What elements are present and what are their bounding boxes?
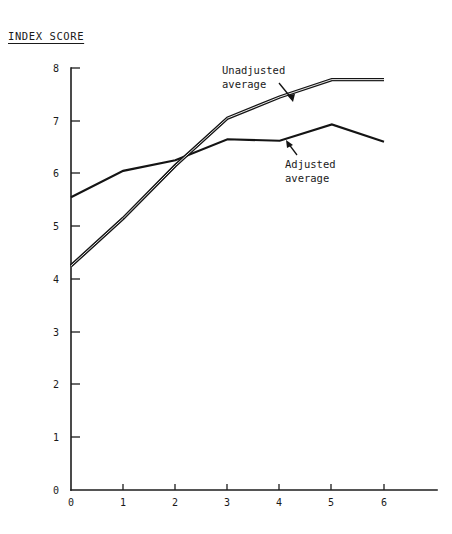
y-tick-label-1: 1 <box>53 432 59 443</box>
annotation-adjusted-line2: average <box>285 172 329 184</box>
y-axis-ticks: 8 7 6 5 4 3 2 1 0 <box>53 63 80 496</box>
annotation-unadjusted-line1: Unadjusted <box>222 64 285 76</box>
x-tick-label-4: 4 <box>276 497 282 508</box>
y-tick-label-8: 8 <box>53 63 59 74</box>
annotation-adjusted-average: Adjusted average <box>285 140 336 184</box>
y-tick-label-5: 5 <box>53 221 59 232</box>
x-tick-label-3: 3 <box>224 497 230 508</box>
x-tick-label-0: 0 <box>68 497 74 508</box>
axes-group <box>71 68 437 490</box>
series-adjusted-average-path <box>71 124 384 197</box>
x-axis-ticks: 0 1 2 3 4 5 6 <box>68 484 387 508</box>
chart-canvas: 8 7 6 5 4 3 2 1 0 0 1 2 3 4 5 6 <box>0 0 452 534</box>
y-tick-label-0: 0 <box>53 485 59 496</box>
y-tick-label-3: 3 <box>53 327 59 338</box>
y-tick-label-6: 6 <box>53 168 59 179</box>
x-tick-label-1: 1 <box>120 497 126 508</box>
arrow-icon <box>286 140 293 148</box>
x-tick-label-6: 6 <box>381 497 387 508</box>
y-tick-label-4: 4 <box>53 274 59 285</box>
series-adjusted-average <box>71 124 384 197</box>
arrow-icon <box>287 94 295 102</box>
y-tick-label-7: 7 <box>53 116 59 127</box>
x-tick-label-5: 5 <box>328 497 334 508</box>
chart-figure: INDEX SCORE 8 7 6 5 4 3 2 1 0 <box>0 0 452 534</box>
x-tick-label-2: 2 <box>172 497 178 508</box>
y-tick-label-2: 2 <box>53 379 59 390</box>
annotation-unadjusted-line2: average <box>222 78 266 90</box>
annotation-adjusted-line1: Adjusted <box>285 158 336 170</box>
